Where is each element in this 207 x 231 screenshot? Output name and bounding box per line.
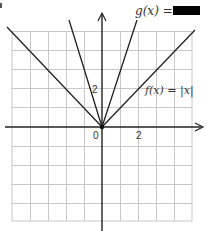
- f-label: f(x) = |x|: [144, 84, 194, 98]
- x-tick-label-2: 2: [136, 130, 142, 141]
- origin-label: 0: [93, 130, 99, 141]
- g-label: g(x) =: [135, 4, 173, 18]
- cropped-glyph: [0, 3, 2, 8]
- y-tick-label-2: 2: [92, 84, 98, 95]
- graph: 0 2 2 f(x) = |x| g(x) =: [0, 0, 207, 231]
- origin-point: [100, 125, 104, 129]
- redaction-box: [173, 6, 200, 15]
- g-curve: [69, 20, 137, 127]
- f-curve: [7, 27, 195, 127]
